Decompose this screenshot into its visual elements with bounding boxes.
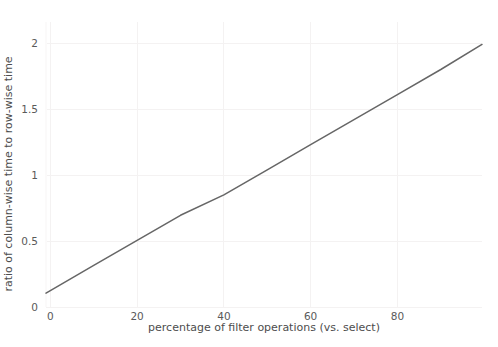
x-tick-label: 40 xyxy=(217,311,230,322)
x-axis-title: percentage of filter operations (vs. sel… xyxy=(46,322,482,334)
x-tick-label: 60 xyxy=(304,311,317,322)
y-tick-label: 2 xyxy=(31,38,38,49)
y-tick-label: 1 xyxy=(31,170,38,181)
y-axis-tick-labels: 00.511.52 xyxy=(0,22,46,307)
x-tick-label: 20 xyxy=(130,311,143,322)
y-tick-label: 0.5 xyxy=(21,236,38,247)
chart-figure: ratio of column-wise time to row-wise ti… xyxy=(0,0,498,347)
x-tick-label: 0 xyxy=(47,311,54,322)
line-series-ratio xyxy=(46,44,482,293)
y-tick-label: 0 xyxy=(31,302,38,313)
x-tick-label: 80 xyxy=(391,311,404,322)
y-tick-label: 1.5 xyxy=(21,104,38,115)
plot-area xyxy=(46,22,482,307)
data-series-layer xyxy=(46,22,482,307)
